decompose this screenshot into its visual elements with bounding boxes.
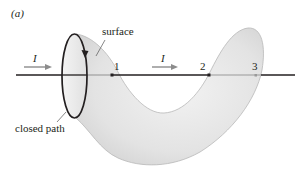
surface-label: surface xyxy=(102,25,134,37)
panel-label: (a) xyxy=(11,7,24,20)
point-1-marker xyxy=(111,74,114,77)
current-label-middle: I xyxy=(160,52,166,64)
surface-shape xyxy=(76,28,263,165)
point-2-marker xyxy=(208,74,211,77)
current-arrowhead-middle-icon xyxy=(171,64,178,70)
current-label-left: I xyxy=(32,52,38,64)
point-2-label: 2 xyxy=(200,60,206,72)
closed-path-label: closed path xyxy=(15,122,65,134)
point-1-label: 1 xyxy=(114,60,120,72)
point-3-marker xyxy=(255,74,258,77)
closed-path-leader-line xyxy=(57,112,66,122)
ampere-surface-diagram: (a) 1 2 3 I I surface closed path xyxy=(0,0,307,179)
current-arrowhead-left-icon xyxy=(45,64,52,70)
point-3-label: 3 xyxy=(252,60,258,72)
